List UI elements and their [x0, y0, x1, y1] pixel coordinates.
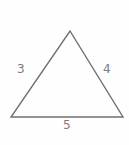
- triangle-side-label-left: 3: [17, 63, 25, 75]
- triangle-figure: 3 4 5: [0, 0, 129, 145]
- triangle-side-label-bottom: 5: [63, 119, 71, 131]
- triangle-side-label-right: 4: [103, 63, 111, 75]
